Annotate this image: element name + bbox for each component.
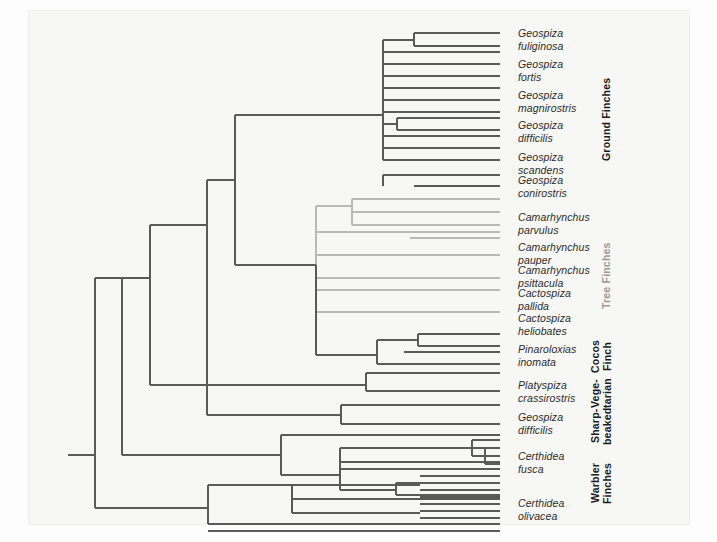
species-genus: Certhidea bbox=[518, 450, 564, 463]
species-genus: Geospiza bbox=[518, 58, 563, 71]
species-genus: Certhidea bbox=[518, 497, 564, 510]
species-epithet: pallida bbox=[518, 300, 571, 313]
species-epithet: parvulus bbox=[518, 224, 590, 237]
species-genus: Geospiza bbox=[518, 174, 567, 187]
species-genus: Geospiza bbox=[518, 151, 564, 164]
species-epithet: olivacea bbox=[518, 510, 564, 523]
species-label-camarhynchus-parvulus: Camarhynchusparvulus bbox=[518, 211, 590, 236]
species-label-camarhynchus-pauper: Camarhynchuspauper bbox=[518, 241, 590, 266]
species-epithet: fortis bbox=[518, 71, 563, 84]
phylogenetic-tree-figure: GeospizafuliginosaGeospizafortisGeospiza… bbox=[0, 0, 717, 542]
group-label-tree-finches: Tree Finches bbox=[600, 236, 612, 316]
species-genus: Geospiza bbox=[518, 411, 563, 424]
species-genus: Pinaroloxias bbox=[518, 343, 576, 356]
species-genus: Camarhynchus bbox=[518, 241, 590, 254]
species-label-platyspiza-crassirostris: Platyspizacrassirostris bbox=[518, 379, 575, 404]
species-genus: Geospiza bbox=[518, 27, 563, 40]
species-label-geospiza-fuliginosa: Geospizafuliginosa bbox=[518, 27, 563, 52]
species-label-camarhynchus-psittacula: Camarhynchuspsittacula bbox=[518, 264, 590, 289]
species-genus: Camarhynchus bbox=[518, 264, 590, 277]
species-epithet: inomata bbox=[518, 356, 576, 369]
species-label-certhidea-olivacea: Certhideaolivacea bbox=[518, 497, 564, 522]
species-label-geospiza-magnirostris: Geospizamagnirostris bbox=[518, 89, 576, 114]
tree-branches-dark bbox=[68, 33, 500, 531]
species-epithet: heliobates bbox=[518, 325, 571, 338]
species-label-geospiza-fortis: Geospizafortis bbox=[518, 58, 563, 83]
species-epithet: difficilis bbox=[518, 424, 563, 437]
species-label-geospiza-difficilis-s: Geospizadifficilis bbox=[518, 411, 563, 436]
group-label-warbler-finches: Warbler Finches bbox=[589, 453, 613, 513]
species-genus: Platyspiza bbox=[518, 379, 575, 392]
species-epithet: difficilis bbox=[518, 132, 563, 145]
species-label-geospiza-conirostris: Geospizaconirostris bbox=[518, 174, 567, 199]
species-label-pinaroloxias-inomata: Pinaroloxiasinomata bbox=[518, 343, 576, 368]
species-label-geospiza-scandens: Geospizascandens bbox=[518, 151, 564, 176]
species-genus: Cactospiza bbox=[518, 312, 571, 325]
species-genus: Cactospiza bbox=[518, 287, 571, 300]
species-label-cactospiza-pallida: Cactospizapallida bbox=[518, 287, 571, 312]
species-epithet: fuliginosa bbox=[518, 40, 563, 53]
species-genus: Geospiza bbox=[518, 119, 563, 132]
species-label-cactospiza-heliobates: Cactospizaheliobates bbox=[518, 312, 571, 337]
species-epithet: fusca bbox=[518, 463, 564, 476]
group-label-ground-finches: Ground Finches bbox=[600, 72, 612, 167]
group-label-sharp-beaked: Sharp- beaked bbox=[589, 402, 613, 450]
species-epithet: conirostris bbox=[518, 187, 567, 200]
tree-branches-light bbox=[316, 199, 500, 312]
species-genus: Geospiza bbox=[518, 89, 576, 102]
species-label-certhidea-fusca: Certhideafusca bbox=[518, 450, 564, 475]
species-label-geospiza-difficilis-g: Geospizadifficilis bbox=[518, 119, 563, 144]
species-epithet: magnirostris bbox=[518, 102, 576, 115]
species-epithet: crassirostris bbox=[518, 392, 575, 405]
species-genus: Camarhynchus bbox=[518, 211, 590, 224]
